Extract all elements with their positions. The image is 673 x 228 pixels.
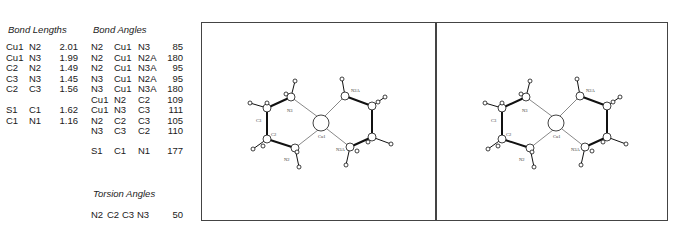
atom3: C2 [138,94,150,105]
atom3: N2A [138,73,156,84]
atom1: Cu1 [6,52,23,63]
table-row: N2 Cu1 N2A 180 [91,52,183,63]
atom2: Cu1 [114,83,131,94]
cu-atom [313,115,329,131]
atom1: Cu1 [91,104,108,115]
atom2: Cu1 [114,41,131,52]
label-n3: N3 [522,108,528,113]
table-row: N3 Cu1 N3A 180 [91,83,183,94]
angle-value: 110 [168,125,183,136]
atom1: N2 [91,209,103,220]
table-row: C3 N3 1.45 [6,73,78,84]
angle-value: 180 [167,83,183,94]
atom3: C2 [138,125,150,136]
table-row: S1 C1 N1 177 [91,145,183,156]
atom2: Cu1 [114,62,131,73]
atom2: C1 [29,104,41,115]
atom1: C2 [6,83,18,94]
atom1: S1 [91,145,103,156]
atom1: N3 [91,125,103,136]
angle-value: 95 [172,73,183,84]
bond-value: 1.49 [60,62,79,73]
atom1: N3 [91,73,103,84]
atom1: C1 [6,115,18,126]
atom2: N3 [29,73,41,84]
atom2: N3 [29,52,41,63]
label-n2: N2 [519,157,525,162]
atom2: C3 [29,83,41,94]
label-n2a: N2A [351,88,360,93]
atom2: Cu1 [114,73,131,84]
bond-value: 2.01 [60,41,79,52]
label-n2a: N2A [586,88,595,93]
label-c3: C3 [491,118,497,123]
angle-value: 95 [172,62,183,73]
atom3: N3 [138,41,150,52]
atom1: Cu1 [91,94,108,105]
atom1: N2 [91,41,103,52]
table-row: N2 C2 C3 105 [91,115,183,126]
angle-value: 111 [169,104,183,115]
table-row: C2 N2 1.49 [6,62,78,73]
atom3: C3 [138,104,150,115]
atom3: C3 [138,115,150,126]
atom2: C2 [114,115,126,126]
table-row: C1 N1 1.16 [6,115,78,126]
table-row: N2 C2 C3 N3 50 [91,209,183,220]
label-c3: C3 [256,118,262,123]
torsion-angles-heading: Torsion Angles [93,188,155,199]
label-n3a: N3A [336,147,345,152]
atom2: C3 [114,125,126,136]
atom1: C3 [6,73,18,84]
label-c2: C2 [506,132,511,137]
atom1: N2 [91,115,103,126]
bond-lengths-heading: Bond Lengths [8,24,67,35]
atom1: N3 [91,83,103,94]
bond-value: 1.62 [60,104,79,115]
atom4: N3 [137,209,149,220]
table-row: N3 Cu1 N2A 95 [91,73,183,84]
atom2: C2 [107,209,119,220]
label-cu1: Cu1 [318,134,326,139]
atom2: C1 [114,145,126,156]
angle-value: 109 [167,94,183,105]
atom2: N1 [29,115,41,126]
atom1: Cu1 [6,41,23,52]
atom2: Cu1 [114,52,131,63]
table-row: N3 C3 C2 110 [91,125,183,136]
table-row: Cu1 N3 C3 111 [91,104,183,115]
atom3: N3A [138,83,156,94]
label-n3: N3 [287,108,293,113]
table-row: C2 C3 1.56 [6,83,78,94]
label-n3a: N3A [571,147,580,152]
table-row: Cu1 N2 2.01 [6,41,78,52]
table-row: N2 Cu1 N3 85 [91,41,183,52]
molecule-right: N3 C3 C2 N2 Cu1 N2A N3A [436,22,668,221]
atom3: N3A [138,62,156,73]
table-row: S1 C1 1.62 [6,104,78,115]
bond-value: 1.56 [60,83,79,94]
atom2: N2 [114,94,126,105]
atom2: N2 [29,41,41,52]
bond-value: 1.99 [60,52,79,63]
label-n2: N2 [284,157,290,162]
angle-value: 180 [167,52,183,63]
bond-value: 1.45 [60,73,79,84]
bond-angles-heading: Bond Angles [93,24,147,35]
atom3: N1 [138,145,150,156]
atom1: N2 [91,52,103,63]
atom3: C3 [122,209,134,220]
label-c2: C2 [271,132,276,137]
molecule-left: N3 C3 C2 N2 Cu1 N2A N3A [201,22,435,221]
table-row: Cu1 N2 C2 109 [91,94,183,105]
atom1: N2 [91,62,103,73]
angle-value: 85 [172,41,183,52]
torsion-value: 50 [172,209,183,220]
atom2: N2 [29,62,41,73]
angle-value: 105 [167,115,183,126]
atom1: S1 [6,104,18,115]
atom2: N3 [114,104,126,115]
atom3: N2A [138,52,156,63]
bond-value: 1.16 [60,115,79,126]
table-row: Cu1 N3 1.99 [6,52,78,63]
